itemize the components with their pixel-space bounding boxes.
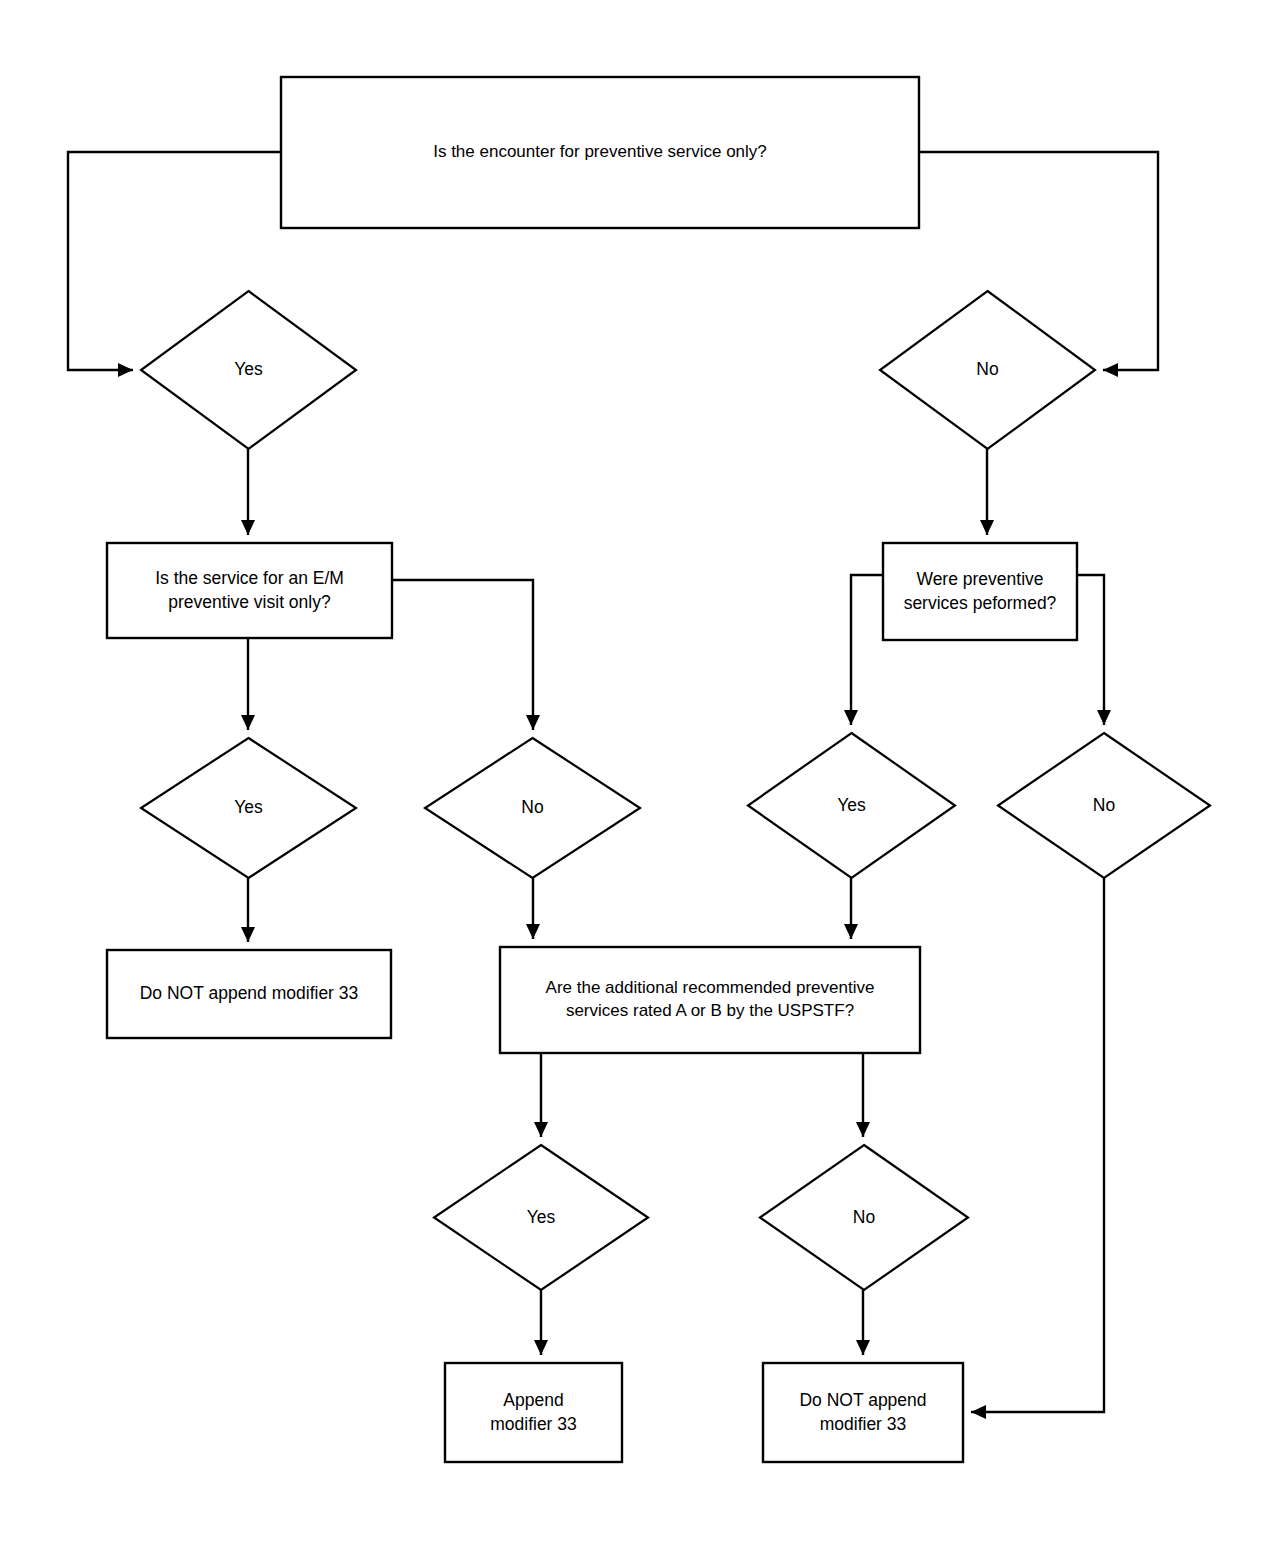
node-q-uspstf-rated xyxy=(500,947,920,1053)
edge-no-services-to-donot xyxy=(971,878,1104,1412)
node-yes-em xyxy=(141,738,356,878)
arrowhead xyxy=(526,715,540,730)
arrowhead xyxy=(1097,710,1111,725)
flowchart-canvas: Is the encounter for preventive service … xyxy=(0,0,1276,1541)
node-do-not-append-bottom xyxy=(763,1363,963,1462)
arrowhead xyxy=(534,1340,548,1355)
edge-services-to-no xyxy=(1077,575,1104,725)
node-do-not-append-left xyxy=(107,950,391,1038)
arrowhead xyxy=(241,715,255,730)
node-q-em-preventive-visit xyxy=(107,543,392,638)
arrowhead xyxy=(534,1122,548,1137)
edge-services-to-yes xyxy=(851,575,883,725)
arrowhead xyxy=(844,924,858,939)
node-q-encounter-preventive xyxy=(281,77,919,228)
arrowhead xyxy=(1103,363,1118,377)
node-no-encounter xyxy=(880,291,1095,449)
node-append-modifier xyxy=(445,1363,622,1462)
node-no-em xyxy=(425,738,640,878)
arrowhead xyxy=(844,710,858,725)
node-yes-uspstf xyxy=(434,1145,648,1290)
node-yes-encounter xyxy=(141,291,356,449)
arrowhead xyxy=(526,924,540,939)
arrowhead xyxy=(241,927,255,942)
flowchart-graphics xyxy=(0,0,1276,1541)
arrowhead xyxy=(856,1340,870,1355)
arrowhead xyxy=(241,520,255,535)
node-no-services xyxy=(998,733,1210,878)
arrowhead xyxy=(971,1405,986,1419)
edge-em-to-no xyxy=(392,580,533,730)
node-q-preventive-services-performed xyxy=(883,543,1077,640)
arrowhead xyxy=(980,520,994,535)
arrowhead xyxy=(118,363,133,377)
shape-layer xyxy=(107,77,1210,1462)
node-yes-services xyxy=(748,733,955,878)
node-no-uspstf xyxy=(760,1145,968,1290)
arrowhead xyxy=(856,1122,870,1137)
